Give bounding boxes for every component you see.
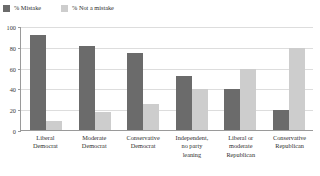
tick-mark-60 (18, 69, 21, 70)
ytick-label-20: 20 (10, 110, 16, 111)
bar[interactable] (95, 112, 111, 130)
bar-group (22, 27, 71, 130)
bar[interactable] (127, 53, 143, 130)
ytick-label-60: 60 (10, 68, 16, 69)
bar[interactable] (273, 110, 289, 130)
plot-area: 100 80 60 40 20 0 (20, 27, 313, 131)
ytick-label-80: 80 (10, 47, 16, 48)
gridline-0: 0 (21, 131, 313, 132)
bar[interactable] (30, 35, 46, 130)
x-axis-label: ModerateDemocrat (70, 134, 119, 159)
x-axis-label: LiberalDemocrat (21, 134, 70, 159)
bar-group (168, 27, 217, 130)
square-swatch-icon (61, 5, 68, 12)
square-swatch-icon (3, 5, 10, 12)
x-axis-label: Liberal ormoderateRepublican (216, 134, 265, 159)
bar-chart-figure: % Mistake % Not a mistake 100 80 60 40 2… (0, 0, 320, 176)
ytick-label-40: 40 (10, 89, 16, 90)
ytick-label-100: 100 (7, 27, 16, 28)
legend-label-not-a-mistake: % Not a mistake (72, 4, 114, 12)
bar-group (265, 27, 314, 130)
legend-entry-mistake: % Mistake (3, 4, 41, 12)
bar-group (216, 27, 265, 130)
tick-mark-0 (18, 131, 21, 132)
legend-label-mistake: % Mistake (14, 4, 41, 12)
x-axis-label: Independent,no partyleaning (167, 134, 216, 159)
tick-mark-100 (18, 27, 21, 28)
legend-entry-not-a-mistake: % Not a mistake (61, 4, 114, 12)
bar-group (119, 27, 168, 130)
bars-layer (22, 27, 313, 130)
x-axis-labels: LiberalDemocratModerateDemocratConservat… (21, 134, 314, 159)
bar[interactable] (46, 121, 62, 130)
bar[interactable] (224, 89, 240, 130)
tick-mark-20 (18, 110, 21, 111)
bar[interactable] (289, 48, 305, 130)
bar[interactable] (79, 46, 95, 130)
chart-legend: % Mistake % Not a mistake (3, 2, 114, 14)
tick-mark-80 (18, 48, 21, 49)
bar[interactable] (192, 89, 208, 130)
x-axis-label: ConservativeDemocrat (119, 134, 168, 159)
bar-group (71, 27, 120, 130)
bar[interactable] (240, 69, 256, 130)
bar[interactable] (176, 76, 192, 130)
bar[interactable] (143, 104, 159, 130)
tick-mark-40 (18, 89, 21, 90)
ytick-label-0: 0 (13, 131, 16, 132)
x-axis-label: ConservativeRepublican (265, 134, 314, 159)
